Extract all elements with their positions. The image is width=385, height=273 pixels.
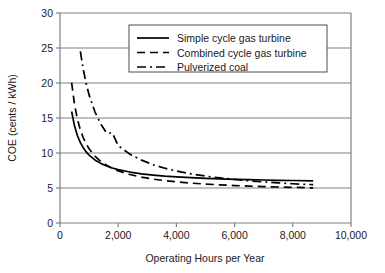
x-tick-label-4000: 4,000 <box>163 229 189 241</box>
y-tick-label-15: 15 <box>41 112 53 124</box>
y-tick-label-5: 5 <box>47 182 53 194</box>
legend-label-1: Combined cycle gas turbine <box>177 47 307 59</box>
y-tick-label-30: 30 <box>41 7 53 19</box>
coe-vs-operating-hours-chart: 051015202530 02,0004,0006,0008,00010,000… <box>0 0 385 273</box>
chart-container: 051015202530 02,0004,0006,0008,00010,000… <box>0 0 385 273</box>
chart-legend: Simple cycle gas turbineCombined cycle g… <box>129 25 327 73</box>
y-tick-label-25: 25 <box>41 42 53 54</box>
x-tick-label-6000: 6,000 <box>221 229 247 241</box>
y-axis-title: COE (cents / kWh) <box>6 74 18 162</box>
x-tick-label-0: 0 <box>57 229 63 241</box>
y-tick-label-10: 10 <box>41 147 53 159</box>
x-tick-label-8000: 8,000 <box>280 229 306 241</box>
x-tick-label-10000: 10,000 <box>335 229 367 241</box>
legend-label-0: Simple cycle gas turbine <box>177 32 291 44</box>
y-tick-label-0: 0 <box>47 217 53 229</box>
x-tick-label-2000: 2,000 <box>105 229 131 241</box>
x-axis-title: Operating Hours per Year <box>145 252 265 264</box>
y-tick-label-20: 20 <box>41 77 53 89</box>
legend-label-2: Pulverized coal <box>177 61 248 73</box>
